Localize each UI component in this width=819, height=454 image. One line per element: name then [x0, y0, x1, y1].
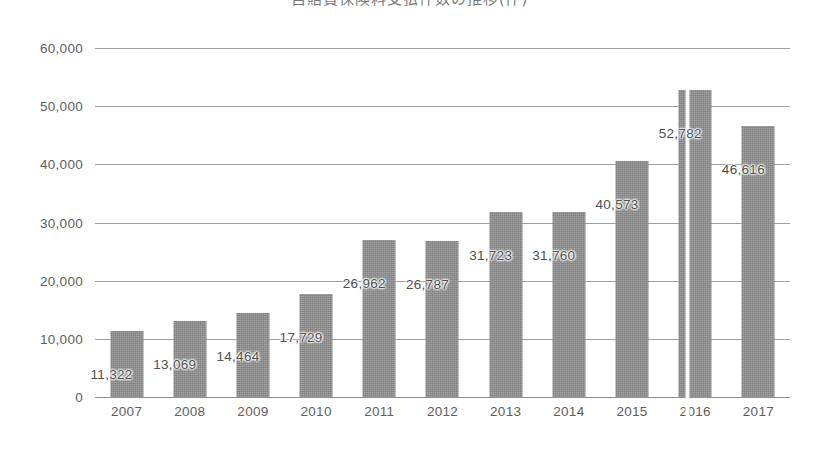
bar-value-label-2008: 13,069 — [153, 357, 196, 372]
bar-2013[interactable] — [489, 212, 522, 397]
bar-value-label-2012: 26,787 — [406, 277, 449, 292]
x-axis-tick-2012: 2012 — [427, 404, 458, 419]
bar-slot-2015 — [600, 48, 663, 397]
bar-slot-2009 — [221, 48, 284, 397]
bar-slot-2008 — [158, 48, 221, 397]
chart-title: 自賠責保険料支払件数の推移(件) — [0, 0, 819, 8]
bar-chart: 自賠責保険料支払件数の推移(件) 010,00020,00030,00040,0… — [0, 0, 819, 454]
bar-2011[interactable] — [363, 240, 396, 397]
x-axis-tick-2017: 2017 — [743, 404, 774, 419]
bar-slot-2011 — [348, 48, 411, 397]
bar-value-label-2014: 31,760 — [532, 248, 575, 263]
bar-value-label-2017: 46,616 — [722, 162, 765, 177]
y-axis-tick-10000: 10,000 — [13, 331, 83, 346]
bar-2007[interactable] — [110, 331, 143, 397]
bar-value-label-2007: 11,322 — [91, 367, 133, 382]
bar-2012[interactable] — [426, 241, 459, 397]
y-axis-tick-60000: 60,000 — [13, 41, 83, 56]
bar-slot-2013 — [474, 48, 537, 397]
plot-area: 11,32213,06914,46417,72926,96226,78731,7… — [95, 48, 790, 397]
x-axis-tick-2015: 2015 — [616, 404, 647, 419]
bar-2014[interactable] — [552, 212, 585, 397]
x-axis-tick-2014: 2014 — [553, 404, 584, 419]
y-axis-tick-0: 0 — [13, 390, 83, 405]
bar-slot-2012 — [411, 48, 474, 397]
x-axis-tick-2011: 2011 — [364, 404, 394, 419]
bar-slot-2017 — [727, 48, 790, 397]
bar-2010[interactable] — [300, 294, 333, 397]
x-axis-tick-2013: 2013 — [490, 404, 521, 419]
x-axis-tick-2007: 2007 — [111, 404, 142, 419]
bar-value-label-2013: 31,723 — [469, 248, 512, 263]
y-axis-tick-30000: 30,000 — [13, 215, 83, 230]
bar-value-label-2009: 14,464 — [216, 349, 259, 364]
x-axis-tick-2009: 2009 — [237, 404, 268, 419]
bar-value-label-2015: 40,573 — [595, 197, 638, 212]
bar-value-label-2010: 17,729 — [280, 330, 323, 345]
bar-slot-2014 — [537, 48, 600, 397]
x-axis-tick-2010: 2010 — [301, 404, 332, 419]
x-axis-tick-2016: 2016 — [680, 404, 711, 419]
y-axis-tick-20000: 20,000 — [13, 273, 83, 288]
x-axis-tick-2008: 2008 — [174, 404, 205, 419]
bar-value-label-2016: 52,782 — [659, 126, 702, 141]
bar-slot-2016 — [664, 48, 727, 397]
y-axis-tick-40000: 40,000 — [13, 157, 83, 172]
bar-value-label-2011: 26,962 — [343, 276, 386, 291]
bar-slot-2007 — [95, 48, 158, 397]
y-axis-tick-50000: 50,000 — [13, 99, 83, 114]
